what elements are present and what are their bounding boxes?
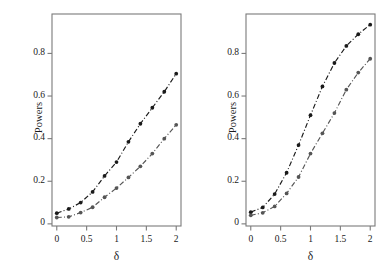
x-tick-label: 2 bbox=[156, 234, 196, 244]
x-tick-label: 2 bbox=[350, 234, 389, 244]
plot-area-left bbox=[0, 0, 194, 271]
chart-panel-right: Powers δ 00.20.40.60.800.511.52 bbox=[194, 0, 388, 271]
y-tick-label: 0.6 bbox=[33, 90, 45, 100]
chart-panel-left: Powers δ 00.20.40.60.800.511.52 bbox=[0, 0, 194, 271]
y-tick-label: 0.8 bbox=[33, 47, 45, 57]
y-tick-label: 0 bbox=[234, 217, 239, 227]
x-axis-label-right: δ bbox=[281, 250, 341, 262]
y-tick-label: 0.4 bbox=[33, 132, 45, 142]
figure-container: Powers δ 00.20.40.60.800.511.52 Powers δ… bbox=[0, 0, 389, 271]
y-tick-label: 0.4 bbox=[227, 132, 239, 142]
x-axis-label-left: δ bbox=[87, 250, 147, 262]
y-tick-label: 0.6 bbox=[227, 90, 239, 100]
plot-area-right bbox=[194, 0, 388, 271]
y-tick-label: 0.8 bbox=[227, 47, 239, 57]
y-tick-label: 0 bbox=[40, 217, 45, 227]
y-tick-label: 0.2 bbox=[33, 175, 45, 185]
y-tick-label: 0.2 bbox=[227, 175, 239, 185]
